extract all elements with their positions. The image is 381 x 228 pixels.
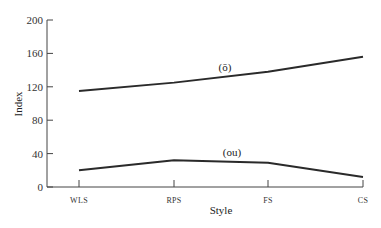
series-line-ou <box>79 160 363 177</box>
y-tick-label: 160 <box>27 47 44 59</box>
x-tick-label: CS <box>358 196 368 205</box>
x-tick-label: RPS <box>166 196 181 205</box>
x-axis-title: Style <box>210 204 233 216</box>
y-tick-label: 200 <box>27 14 44 26</box>
y-tick-label: 40 <box>32 148 44 160</box>
series-label: (ou) <box>223 146 242 159</box>
y-axis-title: Index <box>12 91 24 117</box>
y-axis-ticks: 04080120160200 <box>27 14 54 193</box>
series-label: (ō) <box>219 61 232 74</box>
x-tick-label: FS <box>263 196 273 205</box>
x-tick-label: WLS <box>70 196 88 205</box>
x-axis-ticks: WLSRPSFSCS <box>70 180 368 205</box>
line-chart: 04080120160200 WLSRPSFSCS (ō)(ou) Style … <box>0 0 381 228</box>
y-tick-label: 120 <box>27 81 44 93</box>
series-group: (ō)(ou) <box>79 57 363 177</box>
y-tick-label: 0 <box>38 181 44 193</box>
y-tick-label: 80 <box>32 114 44 126</box>
